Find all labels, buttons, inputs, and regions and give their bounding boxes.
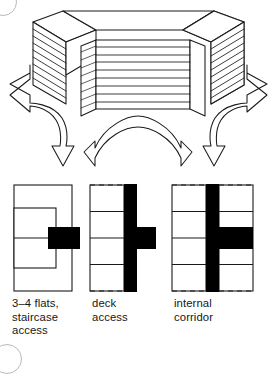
arrow-bottom-arc (84, 116, 192, 166)
plan3-stair-stub (219, 227, 253, 249)
plan-caption-internal-corridor: internal corridor (174, 297, 274, 324)
plan-caption-deck-access: deck access (92, 297, 168, 324)
central-slab-block (81, 40, 205, 116)
plan1-stair-core (48, 227, 80, 249)
plan-staircase-access-art (0, 182, 86, 294)
plan3-corridor-bar (206, 184, 219, 292)
plan2-stair-stub (137, 227, 156, 249)
axonometric-svg (0, 0, 276, 182)
plan-diagrams-row: 3–4 flats, staircase access (0, 182, 276, 358)
plan-caption-staircase-access: 3–4 flats, staircase access (12, 297, 96, 338)
plan2-deck-bar (124, 184, 137, 292)
central-slab-front-face (96, 40, 190, 109)
central-slab-right-end (190, 40, 205, 116)
axonometric-illustration (0, 0, 276, 182)
plan-internal-corridor-art (168, 182, 276, 294)
plan-deck-access-art (86, 182, 168, 294)
